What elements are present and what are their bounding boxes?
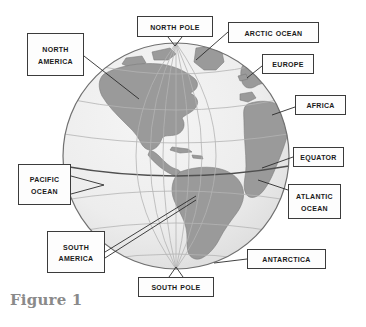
callout-atlantic-ocean[interactable]: Atlantic Ocean — [288, 184, 341, 219]
callout-label-line1: Atlantic — [296, 190, 333, 202]
callout-europe[interactable]: Europe — [262, 54, 314, 74]
callout-label-line2: America — [59, 252, 94, 264]
callout-label-line1: Pacific — [30, 173, 60, 185]
callout-north-pole[interactable]: North Pole — [137, 16, 213, 37]
callout-label-line1: Europe — [272, 58, 303, 70]
callout-pacific-ocean[interactable]: Pacific Ocean — [18, 164, 71, 205]
callout-south-america[interactable]: South America — [47, 231, 105, 273]
callout-label-line2: Ocean — [301, 202, 328, 214]
callout-label-line1: North — [42, 43, 68, 55]
callout-label-line2: America — [38, 55, 73, 67]
callout-africa[interactable]: Africa — [295, 95, 346, 115]
callout-south-pole[interactable]: South Pole — [138, 277, 214, 297]
callout-label-line1: North Pole — [150, 21, 200, 33]
callout-label-line1: Antarctica — [262, 253, 310, 265]
callout-label-line2: Ocean — [31, 185, 58, 197]
callout-arctic-ocean[interactable]: Arctic Ocean — [228, 22, 319, 43]
callout-north-america[interactable]: North America — [27, 33, 84, 76]
callout-label-line1: Arctic Ocean — [245, 27, 303, 39]
callout-label-line1: South — [63, 241, 89, 253]
figure-globe-diagram: North America North Pole Arctic Ocean Eu… — [0, 0, 366, 327]
figure-caption: Figure 1 — [10, 291, 82, 309]
callout-label-line1: Africa — [306, 99, 334, 111]
callout-equator[interactable]: Equator — [293, 147, 344, 167]
callout-antarctica[interactable]: Antarctica — [247, 249, 326, 269]
callout-label-line1: South Pole — [151, 281, 200, 293]
callout-label-line1: Equator — [300, 151, 336, 163]
